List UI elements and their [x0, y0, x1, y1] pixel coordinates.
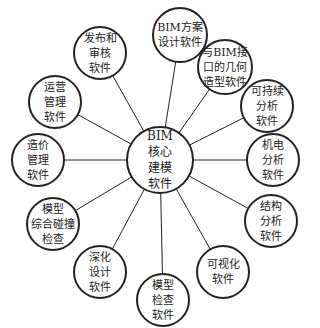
- node-label-line: 软件: [148, 177, 172, 191]
- node-mep-analysis: 机电分析软件: [247, 134, 299, 186]
- node-operations-management: 运营管理软件: [29, 76, 81, 128]
- node-label-line: 软件: [89, 280, 111, 294]
- node-label-line: 管理: [27, 153, 49, 167]
- node-label-line: 深化: [89, 250, 111, 264]
- node-label-line: 设计软件: [158, 35, 202, 49]
- node-label-line: 运营: [44, 80, 66, 94]
- node-label-line: 软件: [262, 168, 284, 182]
- node-sustainability-analysis: 可持续分析软件: [241, 80, 293, 132]
- node-label-line: 口的几何: [203, 60, 247, 74]
- node-geometry-modeling: 与BIM接口的几何造型软件: [198, 40, 252, 94]
- node-label-line: 分析: [256, 99, 278, 113]
- node-label-line: 审核: [89, 46, 111, 60]
- node-label-line: 软件: [44, 110, 66, 124]
- node-label-line: 检查: [152, 293, 174, 307]
- node-label-line: 综合碰撞: [31, 217, 75, 231]
- node-circle: [197, 246, 249, 298]
- node-label-line: 机电: [262, 138, 284, 152]
- node-structural-analysis: 结构分析软件: [245, 195, 297, 247]
- node-release-review: 发布和审核软件: [74, 27, 126, 79]
- node-detailed-design: 深化设计软件: [74, 246, 126, 298]
- node-label-line: BIM方案: [157, 20, 203, 34]
- node-scheme-design: BIM方案设计软件: [153, 8, 207, 62]
- node-label-line: 核心: [148, 145, 172, 159]
- node-model-checking: 模型检查软件: [137, 274, 189, 326]
- node-label-line: 分析: [262, 153, 284, 167]
- node-label-line: 模型: [152, 278, 174, 292]
- node-label-line: 软件: [89, 61, 111, 75]
- node-visualization: 可视化软件: [197, 246, 249, 298]
- node-label-line: 软件: [260, 229, 282, 243]
- node-label-line: 发布和: [84, 31, 117, 45]
- core-modeling-node: BIM核心建模软件: [127, 127, 193, 193]
- node-label-line: 造价: [27, 138, 49, 152]
- node-label-line: 分析: [260, 214, 282, 228]
- node-label-line: 软件: [152, 308, 174, 322]
- node-label-line: 检查: [42, 232, 64, 246]
- node-cost-management: 造价管理软件: [12, 134, 64, 186]
- node-label-line: 管理: [44, 95, 66, 109]
- node-label-line: 软件: [212, 272, 234, 286]
- node-label-line: 软件: [256, 114, 278, 128]
- node-label-line: 与BIM接: [202, 46, 248, 59]
- node-label-line: 设计: [89, 266, 111, 279]
- node-label-line: 造型软件: [203, 75, 247, 89]
- node-label-line: 可视化: [207, 257, 240, 271]
- node-label-line: BIM: [147, 129, 173, 143]
- node-label-line: 建模: [148, 161, 172, 175]
- node-label-line: 可持续: [251, 84, 284, 98]
- node-circle: [153, 8, 207, 62]
- node-label-line: 软件: [27, 168, 49, 182]
- node-core: BIM核心建模软件: [127, 127, 193, 193]
- node-label-line: 结构: [260, 199, 282, 213]
- node-label-line: 模型: [42, 202, 64, 216]
- node-clash-detection: 模型综合碰撞检查: [27, 198, 79, 250]
- bim-software-diagram: BIM方案设计软件与BIM接口的几何造型软件可持续分析软件机电分析软件结构分析软…: [0, 0, 320, 328]
